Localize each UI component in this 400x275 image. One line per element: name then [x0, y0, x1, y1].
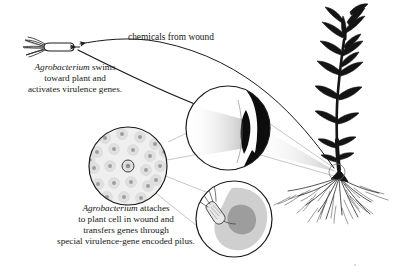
agrobacterium-diagram: chemicals from wound Agrobacterium swims…	[0, 0, 400, 275]
inset-tissue	[85, 116, 169, 206]
caption-attaches-line-4: special virulence-gene encoded pilus.	[36, 236, 216, 247]
caption-attaches-line-1-rest: attaches	[138, 203, 170, 213]
caption-swims-line-3: activates virulence genes.	[2, 84, 148, 95]
caption-swims-genus: Agrobacterium	[34, 62, 89, 72]
scan-artifact	[354, 264, 356, 266]
caption-attaches-line-3: transfers genes through	[36, 225, 216, 236]
caption-swims-line-2: toward plant and	[2, 73, 148, 84]
caption-bacterium-swims: Agrobacterium swims toward plant and act…	[2, 62, 148, 95]
bacterium-free	[23, 37, 74, 57]
caption-swims-line-1-rest: swims	[90, 62, 116, 72]
inset-wound	[186, 86, 275, 175]
cell-nucleus	[227, 205, 256, 235]
caption-attaches-genus: Agrobacterium	[82, 203, 137, 213]
plant	[274, 4, 388, 224]
caption-swims-line-1: Agrobacterium swims	[2, 62, 148, 73]
caption-attaches-line-1: Agrobacterium attaches	[36, 203, 216, 214]
caption-attaches-line-2: to plant cell in wound and	[36, 214, 216, 225]
label-chemicals-from-wound: chemicals from wound	[128, 32, 214, 42]
caption-bacterium-attaches: Agrobacterium attaches to plant cell in …	[36, 203, 216, 246]
